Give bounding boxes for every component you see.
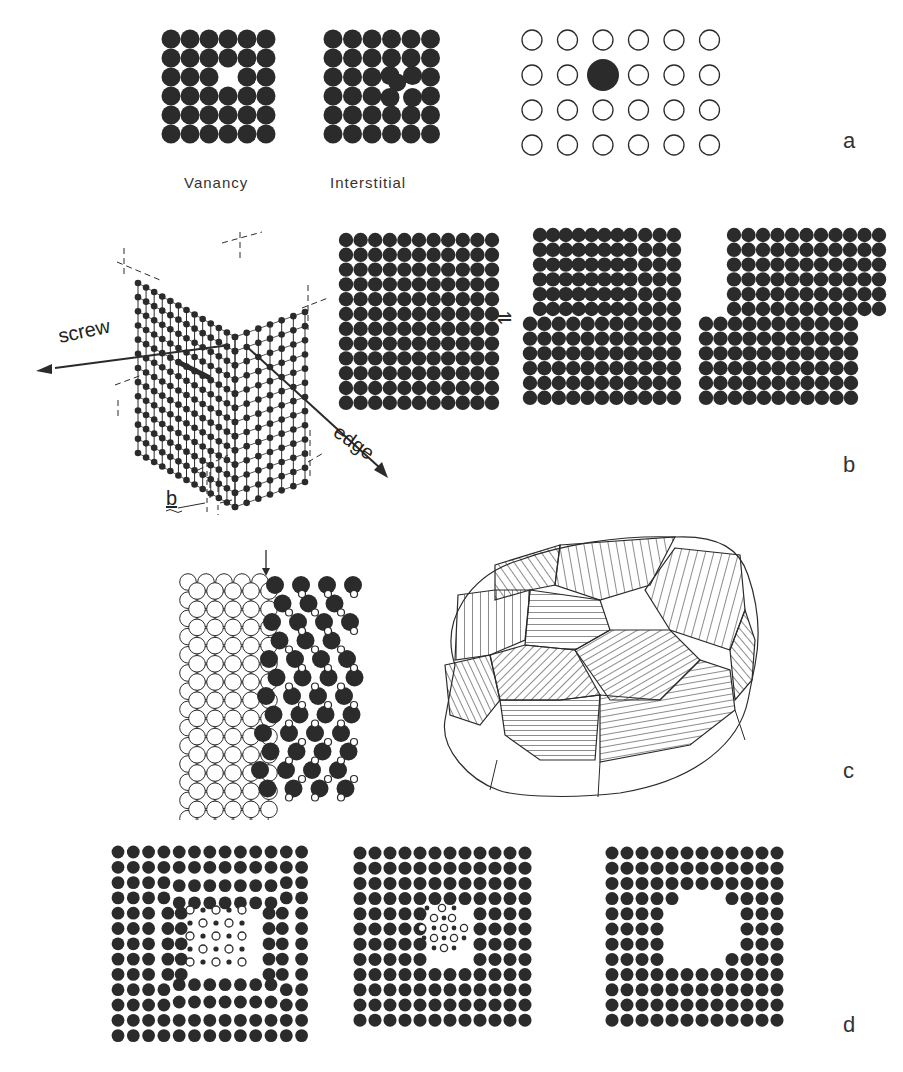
label-screw: screw (56, 314, 112, 346)
panel-b-drawing: screwedgeb⇌ (0, 200, 903, 520)
panel-a-drawing (0, 0, 903, 200)
label-burgers-vector: b (166, 487, 177, 509)
panel-c: c (0, 520, 903, 820)
caption-interstitial: Interstitial (330, 174, 406, 191)
panel-label-c: c (843, 758, 854, 784)
label-edge: edge (330, 420, 379, 464)
panel-label-a: a (843, 128, 855, 154)
caption-vacancy: Vanancy (184, 174, 248, 191)
panel-d: d (0, 820, 903, 1072)
panel-c-drawing (0, 520, 903, 820)
panel-label-d: d (843, 1012, 855, 1038)
equilibrium-arrow-icon: ⇌ (497, 308, 512, 328)
panel-label-b: b (843, 452, 855, 478)
panel-d-drawing (0, 820, 903, 1072)
panel-a: Vanancy Interstitial a (0, 0, 903, 200)
panel-b: screwedgeb⇌ b (0, 200, 903, 520)
